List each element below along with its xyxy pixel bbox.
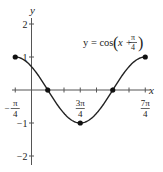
data-point [110,87,115,92]
y-tick-label: −1 [17,118,28,129]
y-tick-label: −2 [17,151,28,162]
equation-label: y = cos ( x + π 4 ) [83,33,143,52]
x-axis-label: x [148,84,154,96]
data-point [78,120,83,125]
y-axis-label: y [29,4,35,16]
x-tick-label: 7π4 [141,98,151,119]
equation-frac-den: 4 [131,43,135,52]
svg-text:π: π [13,98,18,108]
svg-text:4: 4 [143,109,148,119]
equation-frac-num: π [131,33,135,42]
x-tick-label: 3π4 [76,98,86,119]
data-point [13,54,18,59]
equation-prefix: y = cos [83,37,113,48]
y-tick-label: 2 [23,19,28,30]
svg-text:4: 4 [13,109,18,119]
data-point [143,54,148,59]
svg-text:3π: 3π [76,98,86,108]
data-point [45,87,50,92]
axis-labels: y x [29,4,154,96]
svg-text:−: − [4,103,9,113]
svg-text:4: 4 [78,109,83,119]
svg-text:y = cos: y = cos [83,37,113,48]
x-tick-label: π4− [4,98,20,119]
svg-text:7π: 7π [141,98,151,108]
right-paren: ) [138,34,143,52]
cosine-chart: 21−1−2π4−3π47π4 y x y = cos ( x + π 4 ) [0,0,163,172]
